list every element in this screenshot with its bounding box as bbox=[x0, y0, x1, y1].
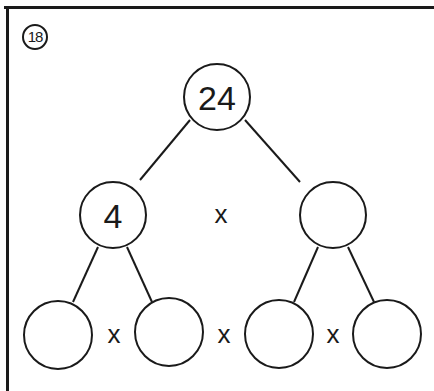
edge-left-ll bbox=[73, 247, 98, 302]
node-bottom-1[interactable] bbox=[24, 301, 92, 369]
node-root[interactable]: 24 bbox=[184, 64, 250, 130]
node-middle-left-value: 4 bbox=[104, 197, 123, 235]
node-bottom-2[interactable] bbox=[135, 298, 203, 366]
edge-root-right bbox=[245, 120, 300, 182]
edge-left-lr bbox=[127, 247, 152, 302]
node-middle-left[interactable]: 4 bbox=[80, 182, 146, 248]
edge-right-rl bbox=[294, 247, 318, 302]
node-root-value: 24 bbox=[198, 79, 236, 117]
edge-root-left bbox=[140, 120, 190, 180]
node-middle-right[interactable] bbox=[300, 182, 366, 248]
edge-right-rr bbox=[348, 247, 374, 302]
operator-bottom-3: x bbox=[327, 319, 340, 349]
node-bottom-4[interactable] bbox=[353, 300, 421, 368]
operator-bottom-2: x bbox=[218, 319, 231, 349]
operator-bottom-1: x bbox=[108, 319, 121, 349]
node-bottom-3[interactable] bbox=[245, 300, 313, 368]
operator-middle: x bbox=[215, 199, 228, 229]
worksheet: 18 24 4 x bbox=[0, 0, 434, 391]
factor-tree: 24 4 x x x x bbox=[0, 0, 434, 391]
